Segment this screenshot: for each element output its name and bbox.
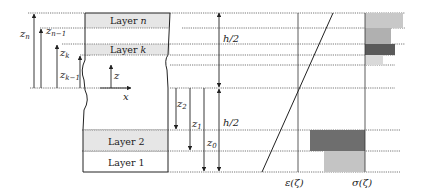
z-k-label: zk — [59, 47, 70, 60]
layer-1-label: Layer 1 — [108, 157, 145, 168]
z-0-label: z0 — [206, 137, 217, 150]
stress-label: σ(ζ) — [352, 177, 372, 188]
layer-k-label: Layer k — [110, 44, 147, 55]
h-half-bottom-label: h/2 — [223, 117, 239, 128]
h-half-top-label: h/2 — [223, 33, 239, 44]
layer-n-label: Layer n — [110, 15, 147, 26]
z-k-1-label: zk−1 — [59, 69, 80, 82]
z-axis-label: z — [113, 70, 120, 81]
stress-distribution — [310, 13, 403, 172]
layer-2-label: Layer 2 — [108, 136, 145, 147]
strain-label: ε(ζ) — [285, 177, 304, 188]
laminate-diagram: Layer n Layer k Layer 2 Layer 1 zn zn−1 … — [0, 0, 424, 196]
z-2-label: z2 — [176, 98, 187, 111]
z-1-label: z1 — [191, 118, 202, 131]
x-axis-label: x — [123, 91, 129, 102]
z-n-label: zn — [19, 28, 30, 41]
z-n-1-label: zn−1 — [45, 25, 66, 38]
